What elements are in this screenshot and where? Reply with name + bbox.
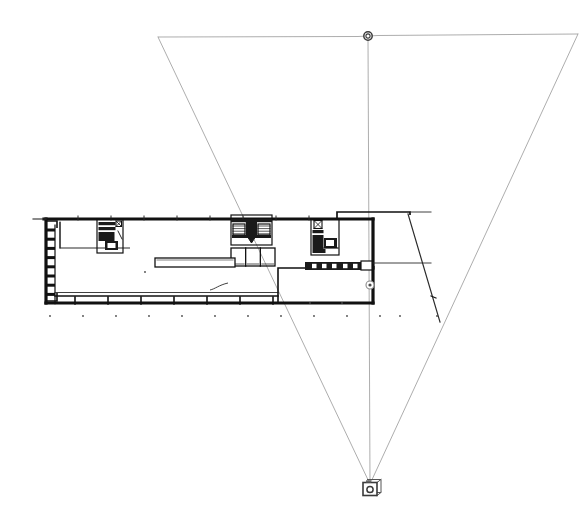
survey-dot [341,302,343,304]
survey-dot [399,315,401,317]
wall-opening [343,264,348,268]
wall-opening [353,264,358,268]
core-solid-block [313,235,324,249]
survey-dot [379,315,381,317]
survey-dot [346,315,348,317]
core-bar [99,227,116,230]
restroom-block [231,248,275,266]
core-cab-void [108,243,116,248]
core-bar-lower [313,249,326,253]
plan-furniture [155,258,372,290]
plan-viewer: Architectural Floor Plan with Camera Vie… [0,0,586,532]
survey-dot [280,315,282,317]
section-tick [431,296,436,298]
small-square-fixture [361,261,372,270]
view-target-node-inner[interactable] [366,34,370,38]
core-bar [313,230,324,233]
annotation-lines [373,212,440,322]
plan-target-node-dot[interactable] [368,283,371,286]
long-counter [155,258,235,267]
stair-arrow [247,236,256,243]
floor-plan-drawing [0,0,586,532]
core-bar [99,222,116,225]
core-diagonal [118,231,122,239]
stair-core-solid [246,222,257,235]
cone-center-axis[interactable] [368,36,370,484]
core-bar [231,219,272,222]
core-solid-block [99,232,115,241]
survey-dot [181,315,183,317]
survey-dot [313,315,315,317]
cone-edge-right[interactable] [370,34,578,484]
survey-dot [148,315,150,317]
survey-dot [144,271,146,273]
freehand-squiggle-mark [210,283,228,290]
camera-top-plate [366,480,371,482]
survey-dot [214,315,216,317]
wall-opening [312,264,317,268]
wall-opening [322,264,327,268]
survey-dot [82,315,84,317]
survey-dot [309,302,311,304]
survey-dot [115,315,117,317]
survey-dot [49,315,51,317]
wall-opening [332,264,337,268]
camera-lens[interactable] [367,486,373,492]
lower-right-room-outline [278,268,373,303]
core-fixture-void [326,240,334,246]
section-cut-line [408,214,440,322]
survey-dot [247,315,249,317]
